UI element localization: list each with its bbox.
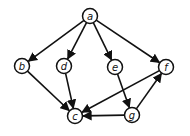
edge-a-to-b [28, 20, 84, 61]
edge-g-to-f [136, 74, 161, 109]
edge-a-to-d [68, 23, 87, 59]
node-c: c [68, 109, 83, 124]
node-e: e [108, 60, 123, 75]
edge-a-to-f [96, 20, 159, 62]
node-label: b [19, 61, 25, 72]
node-label: d [61, 61, 68, 72]
node-f: f [159, 60, 174, 75]
edge-d-to-c [66, 73, 74, 108]
node-label: c [72, 111, 78, 122]
edge-g-to-c [83, 115, 125, 116]
node-label: g [129, 110, 135, 121]
directed-graph: abdefcg [0, 0, 190, 136]
node-b: b [15, 59, 30, 74]
node-a: a [83, 9, 98, 24]
node-label: a [87, 11, 93, 22]
node-d: d [57, 59, 72, 74]
edges-group [28, 20, 162, 116]
node-label: e [112, 62, 118, 73]
edge-b-to-c [28, 71, 70, 110]
node-g: g [125, 108, 140, 123]
